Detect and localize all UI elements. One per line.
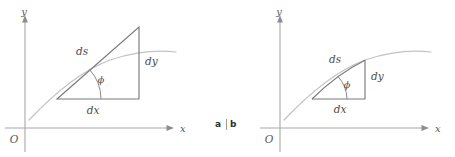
label-dx-b: dx	[334, 103, 347, 115]
arc-hypotenuse-b	[312, 60, 365, 99]
label-origin-a: O	[10, 133, 19, 145]
figure-container: ds dy dx ϕ y x O ds dy	[0, 0, 455, 157]
caption-label-a: a	[215, 118, 221, 130]
label-x-axis-a: x	[180, 123, 186, 134]
x-axis-arrowhead-b	[422, 125, 430, 131]
label-x-axis-b: x	[435, 123, 441, 134]
panel-b: ds dy dx ϕ y x O	[255, 0, 455, 157]
x-axis-arrowhead-a	[167, 125, 175, 131]
label-ds-b: ds	[329, 53, 342, 65]
caption-divider	[226, 119, 227, 130]
label-y-axis-b: y	[275, 6, 282, 17]
curve-b	[284, 51, 431, 120]
triangle-legs-b	[312, 60, 365, 99]
caption-label-b: b	[230, 118, 236, 130]
label-dy-a: dy	[145, 55, 159, 67]
label-phi-a: ϕ	[98, 74, 105, 85]
label-ds-a: ds	[76, 45, 89, 57]
label-dy-b: dy	[371, 70, 385, 82]
label-origin-b: O	[265, 133, 274, 145]
label-phi-b: ϕ	[344, 79, 351, 90]
label-dx-a: dx	[87, 104, 100, 116]
panel-a: ds dy dx ϕ y x O	[0, 0, 200, 157]
label-y-axis-a: y	[20, 6, 27, 17]
triangle-a	[57, 27, 139, 99]
